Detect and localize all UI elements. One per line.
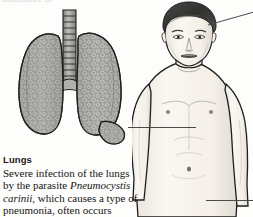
species-name-part-2: carinii bbox=[3, 192, 32, 204]
leader-line-to-head bbox=[208, 10, 253, 26]
leader-line-to-lungs bbox=[128, 127, 196, 128]
caption-body: Severe infection of the lungs by the par… bbox=[3, 167, 141, 217]
left-lung-graphic bbox=[77, 33, 125, 144]
male-body-illustration bbox=[132, 0, 253, 217]
leader-line-to-abdomen bbox=[206, 200, 253, 201]
caption-title: Lungs bbox=[3, 154, 143, 166]
caption-line-2-pre: by the parasite bbox=[3, 179, 70, 191]
right-lung-graphic bbox=[19, 34, 63, 134]
caption-line-3-post: , which causes a type bbox=[32, 192, 125, 204]
caption-line-1: Severe infection of the lungs bbox=[3, 167, 129, 179]
species-name-part-1: Pneumocystis bbox=[70, 179, 130, 191]
caption-block: Lungs Severe infection of the lungs by t… bbox=[3, 154, 143, 217]
lungs-illustration bbox=[6, 4, 132, 152]
torso-graphic bbox=[136, 60, 239, 217]
medical-illustration-figure: appearance of bbox=[0, 0, 253, 217]
cut-off-text-sliver: appearance of bbox=[2, 0, 62, 2]
